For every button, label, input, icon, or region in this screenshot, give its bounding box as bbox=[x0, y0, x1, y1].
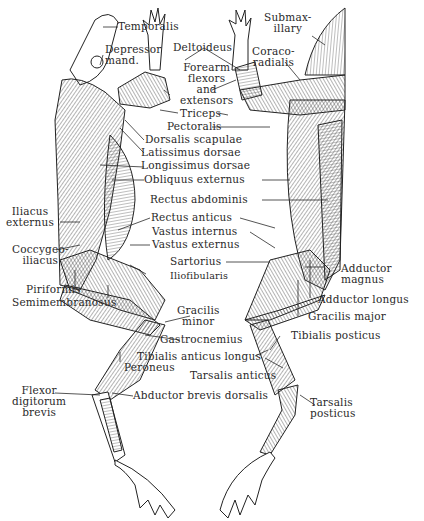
label-gracilis-major: Gracilis major bbox=[308, 311, 386, 322]
label-depressor-mandibulae: Depressor mand. bbox=[105, 44, 162, 66]
label-longissimus-dorsae: Longissimus dorsae bbox=[141, 160, 250, 171]
label-coracoradialis: Coraco- radialis bbox=[252, 46, 295, 68]
label-obliquus-externus: Obliquus externus bbox=[144, 174, 245, 185]
label-tarsalis-posticus: Tarsalis posticus bbox=[310, 397, 356, 419]
label-tarsalis-anticus: Tarsalis anticus bbox=[190, 370, 276, 381]
label-coccygeo-iliacus: Coccygeo- iliacus bbox=[12, 244, 69, 266]
label-tibialis-posticus: Tibialis posticus bbox=[291, 330, 381, 341]
label-dorsalis-scapulae: Dorsalis scapulae bbox=[145, 134, 242, 145]
label-adductor-magnus: Adductor magnus bbox=[341, 263, 392, 285]
label-flexor-digitorum-brevis: Flexor digitorum brevis bbox=[12, 385, 66, 418]
label-adductor-longus: Adductor longus bbox=[318, 294, 409, 305]
label-sartorius: Sartorius bbox=[170, 256, 221, 267]
frog-muscle-diagram: Temporalis Depressor mand. Deltoideus Su… bbox=[0, 0, 424, 521]
label-semimembranosus: Semimembranosus bbox=[12, 297, 116, 308]
label-forearm-flexors-extensors: Forearm flexors and extensors bbox=[180, 62, 233, 106]
label-deltoideus: Deltoideus bbox=[173, 42, 232, 53]
dorsal-view bbox=[55, 8, 175, 518]
label-temporalis: Temporalis bbox=[118, 21, 179, 32]
label-piriformis: Piriformis bbox=[26, 284, 81, 295]
label-iliofibularis: Iliofibularis bbox=[170, 270, 228, 281]
ventral-view bbox=[220, 8, 345, 518]
label-latissimus-dorsae: Latissimus dorsae bbox=[141, 147, 241, 158]
label-vastus-externus: Vastus externus bbox=[152, 239, 239, 250]
label-submaxillary: Submax- illary bbox=[264, 12, 312, 34]
label-rectus-anticus: Rectus anticus bbox=[151, 212, 232, 223]
label-peroneus: Peroneus bbox=[124, 362, 175, 373]
label-pectoralis: Pectoralis bbox=[167, 121, 222, 132]
label-triceps: Triceps bbox=[180, 108, 221, 119]
label-iliacus-externus: Iliacus externus bbox=[6, 206, 54, 228]
label-gastrocnemius: Gastrocnemius bbox=[160, 334, 243, 345]
label-gracilis-minor: Gracilis minor bbox=[177, 305, 220, 327]
label-rectus-abdominis: Rectus abdominis bbox=[150, 194, 248, 205]
label-vastus-internus: Vastus internus bbox=[152, 226, 237, 237]
label-abductor-brevis-dorsalis: Abductor brevis dorsalis bbox=[133, 390, 268, 401]
